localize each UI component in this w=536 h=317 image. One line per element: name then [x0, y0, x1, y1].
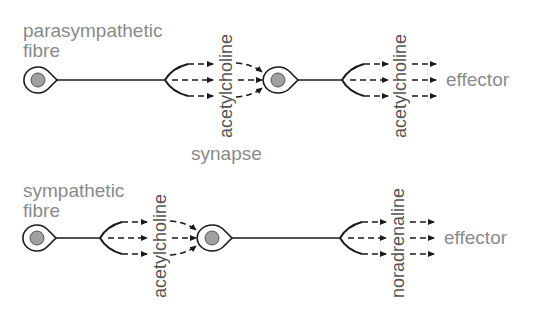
preganglionic-neuron-cell-body	[24, 67, 57, 93]
sympathetic-fibre-label-line1: sympathetic	[23, 181, 124, 201]
preganglionic-transmitter-label: acetylcholine	[151, 194, 169, 298]
postganglionic-neuron-cell-body	[263, 67, 298, 93]
parasympathetic-fibre-label-line1: parasympathetic	[23, 21, 162, 41]
parasympathetic-fibre-label-line2: fibre	[23, 41, 60, 61]
preganglionic-transmitter-label: acetylcholine	[217, 34, 235, 138]
axon-terminal-branch	[165, 80, 188, 96]
axon-terminal-branch	[165, 64, 188, 80]
postganglionic-neuron-cell-body	[197, 225, 232, 251]
postganglionic-transmitter-label: acetylcholine	[391, 34, 409, 138]
sympathetic-fibre-label-line2: fibre	[23, 201, 60, 221]
postganglionic-transmitter-label: noradrenaline	[389, 188, 407, 298]
synapse-label: synapse	[191, 144, 262, 164]
effector-label: effector	[446, 70, 509, 90]
sympathetic-pathway	[23, 221, 434, 255]
autonomic-nervous-system-diagram: parasympathetic fibre acetylcholine syna…	[0, 0, 536, 317]
diagram-graphics	[0, 0, 536, 317]
preganglionic-neuron-cell-body	[23, 225, 56, 251]
effector-label: effector	[444, 228, 507, 248]
